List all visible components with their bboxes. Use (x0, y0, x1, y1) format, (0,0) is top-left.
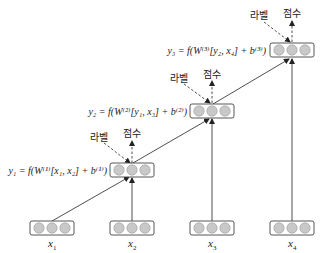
input-x3 (190, 221, 234, 235)
hidden-y2 (190, 104, 234, 118)
input-x4 (270, 221, 314, 235)
label-text-2: 라벨 (170, 73, 188, 84)
input-label-x2: x2 (127, 237, 137, 252)
label-text-1: 라벨 (90, 132, 108, 143)
label-text-3: 라벨 (250, 10, 268, 21)
input-x2 (110, 221, 154, 235)
rnn-diagram: x1 x2 x3 x4 y₁ = f(W⁽¹⁾[x₁, x₂] + b⁽¹⁾) … (0, 0, 323, 253)
edge-y1-y2 (133, 119, 209, 163)
hidden-y1 (110, 163, 154, 177)
input-label-x3: x3 (207, 237, 217, 252)
equation-y3: y₃ = f(W⁽³⁾[y₂, x₄] + b⁽³⁾) (166, 45, 266, 57)
equation-y2: y₂ = f(W⁽²⁾[y₁, x₃] + b⁽²⁾) (87, 106, 187, 118)
score-text-3: 점수 (283, 8, 301, 19)
output-arrows (104, 21, 292, 163)
input-label-x4: x4 (287, 237, 297, 252)
score-text-1: 점수 (123, 128, 141, 139)
equation-y1: y₁ = f(W⁽¹⁾[x₁, x₂] + b⁽¹⁾) (7, 165, 107, 177)
edge-x1-y1 (52, 177, 129, 221)
input-x1 (30, 221, 74, 235)
hidden-y3 (270, 43, 314, 57)
score-text-2: 점수 (203, 69, 221, 80)
input-label-x1: x1 (47, 237, 57, 252)
edge-y2-y3 (213, 59, 289, 104)
